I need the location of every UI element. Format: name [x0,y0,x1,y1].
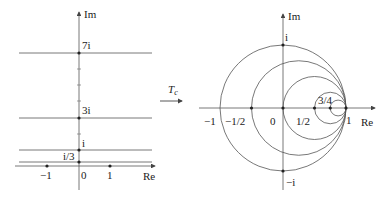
left-im-label: Im [84,8,97,20]
right-plane: Im i −i −1 −1/2 0 1/2 1 3/4 Re [199,10,375,190]
right-origin-label: 0 [270,115,276,127]
label-7i: 7i [82,39,91,51]
tick-1: 1 [346,114,352,126]
tick-neg-half: −1/2 [225,115,245,127]
right-top-label: i [285,31,288,43]
inner-label-3-4: 3/4 [318,94,333,106]
label-i: i [82,137,85,149]
label-3i: 3i [82,104,91,116]
left-origin-label: 0 [81,169,87,181]
tick-half: 1/2 [296,115,310,127]
left-plane: Im 7i 3i i i/3 −1 0 1 Re [15,8,155,190]
left-tick-1: 1 [107,169,113,181]
right-im-label: Im [288,10,301,22]
tick-neg1: −1 [204,115,216,127]
transform-arrow: Tc [160,83,182,101]
label-i-third: i/3 [63,150,75,162]
transform-label: Tc [168,83,178,97]
left-tick-neg1: −1 [40,169,52,181]
right-bottom-label: −i [286,176,295,188]
right-re-label: Re [361,116,373,128]
left-re-label: Re [143,170,155,182]
diagram-canvas: Im 7i 3i i i/3 −1 0 1 Re Tc [0,0,388,198]
